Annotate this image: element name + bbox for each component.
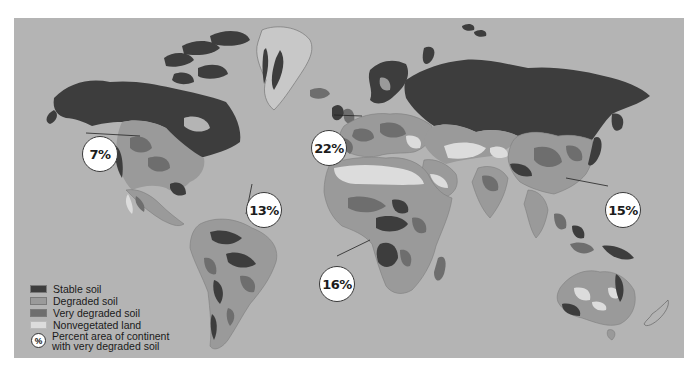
degraded-soil-swatch <box>30 297 47 305</box>
callout-value: 7% <box>89 147 110 162</box>
callout-value: 13% <box>249 203 279 218</box>
callout-asia: 15% <box>605 192 641 228</box>
callout-north-america: 7% <box>82 136 118 172</box>
callout-value: 22% <box>314 141 344 156</box>
legend-label: Nonvegetated land <box>53 319 141 331</box>
callout-value: 15% <box>608 203 638 218</box>
percent-label-line2: with very degraded soil <box>52 341 169 351</box>
legend-label: Very degraded soil <box>53 307 140 319</box>
callout-south-america: 13% <box>246 192 282 228</box>
legend-label: Degraded soil <box>53 295 118 307</box>
nonvegetated-land-swatch <box>30 321 47 329</box>
legend-label: Stable soil <box>53 283 101 295</box>
percent-circle-icon: % <box>31 333 46 348</box>
australia <box>557 271 635 326</box>
legend-item-nonvegetated-land: Nonvegetated land <box>14 319 174 330</box>
callout-value: 16% <box>322 277 352 292</box>
very-degraded-soil-swatch <box>30 309 47 317</box>
stable-soil-swatch <box>30 285 47 293</box>
legend-item-stable-soil: Stable soil <box>14 283 174 294</box>
callout-africa: 16% <box>319 266 355 302</box>
legend-item-degraded-soil: Degraded soil <box>14 295 174 306</box>
legend-item-percent: % Percent area of continent with very de… <box>14 331 174 351</box>
callout-europe: 22% <box>311 130 347 166</box>
map-legend: Stable soil Degraded soil Very degraded … <box>14 283 174 351</box>
legend-item-very-degraded-soil: Very degraded soil <box>14 307 174 318</box>
